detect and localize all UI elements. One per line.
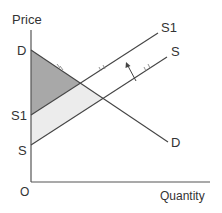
- supply-label-start: S: [18, 143, 27, 158]
- shift-arrow-icon: [126, 62, 137, 81]
- supply-label-end: S: [171, 44, 180, 59]
- supply-shifted-label-end: S1: [161, 20, 177, 35]
- curve-tick-marks: [57, 64, 150, 71]
- origin-label: O: [20, 185, 29, 199]
- supply-shifted-label-start: S1: [11, 108, 27, 123]
- demand-label-end: D: [171, 135, 180, 150]
- supply-demand-diagram: Price Quantity O D D S1 S1 S S: [0, 0, 222, 213]
- y-axis-label: Price: [12, 12, 42, 27]
- demand-label-start: D: [17, 43, 26, 58]
- x-axis-label: Quantity: [160, 189, 205, 203]
